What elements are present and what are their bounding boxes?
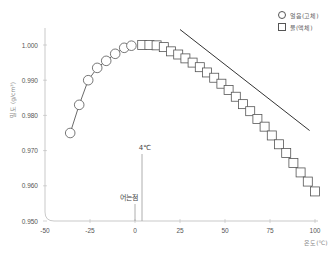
x-axis-label: 온도(℃) xyxy=(304,239,327,246)
legend-label-water: 물(액체) xyxy=(290,23,313,32)
water-series xyxy=(138,41,320,196)
data-point-square xyxy=(260,122,269,131)
data-point-square xyxy=(311,187,320,196)
ice-series xyxy=(65,41,136,138)
y-tick-label: 0.990 xyxy=(22,77,39,84)
y-tick-label: 1.000 xyxy=(22,42,39,49)
x-tick-label: 25 xyxy=(176,227,184,234)
max-density-label: 4℃ xyxy=(139,144,151,152)
data-point-square xyxy=(275,140,284,149)
data-point-square xyxy=(296,168,305,177)
x-tick-label: 0 xyxy=(133,227,137,234)
data-point-square xyxy=(282,149,291,158)
x-tick-label: 75 xyxy=(266,227,274,234)
data-point-circle xyxy=(110,49,120,59)
data-point-circle xyxy=(127,41,137,51)
x-tick-label: 100 xyxy=(310,227,321,234)
x-tick-label: 50 xyxy=(221,227,229,234)
legend-item-ice: 얼음(고체) xyxy=(278,9,319,21)
legend: 얼음(고체) 물(액체) xyxy=(278,9,319,33)
series-line xyxy=(70,46,131,133)
y-tick-label: 0.960 xyxy=(22,182,39,189)
circle-marker-icon xyxy=(278,11,286,19)
y-axis-ticks: 0.9500.9600.9700.9800.9901.000 xyxy=(22,42,47,225)
data-point-circle xyxy=(83,75,93,85)
y-axis-label: 밀도 (g/cm³) xyxy=(9,82,17,118)
y-tick-label: 0.970 xyxy=(22,147,39,154)
data-point-square xyxy=(289,158,298,167)
y-tick-label: 0.980 xyxy=(22,112,39,119)
trend-line xyxy=(180,30,310,131)
data-point-square xyxy=(267,131,276,140)
data-point-circle xyxy=(65,128,75,138)
data-point-circle xyxy=(92,63,102,73)
data-point-circle xyxy=(74,100,84,110)
data-point-square xyxy=(303,177,312,186)
x-tick-label: -25 xyxy=(85,227,95,234)
square-marker-icon xyxy=(278,23,286,31)
density-chart: 0.9500.9600.9700.9800.9901.000 -50-25025… xyxy=(0,0,332,259)
data-point-circle xyxy=(101,56,111,66)
x-tick-label: -50 xyxy=(40,227,50,234)
legend-label-ice: 얼음(고체) xyxy=(290,11,319,20)
freezing-point-label: 어는점 xyxy=(120,193,138,202)
y-tick-label: 0.950 xyxy=(22,218,39,225)
legend-item-water: 물(액체) xyxy=(278,21,319,33)
